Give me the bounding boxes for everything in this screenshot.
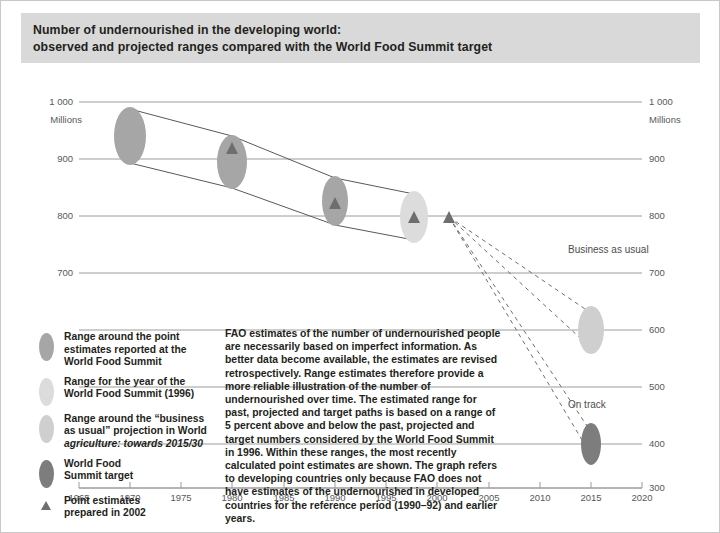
legend-label-line: agriculture: towards 2015/30 bbox=[64, 438, 216, 451]
point-estimate-1999 bbox=[443, 211, 455, 223]
svg-text:700: 700 bbox=[649, 267, 665, 278]
chart-frame: Number of undernourished in the developi… bbox=[21, 13, 700, 521]
svg-text:900: 900 bbox=[57, 153, 73, 164]
chart-page: Number of undernourished in the developi… bbox=[0, 0, 720, 533]
svg-text:400: 400 bbox=[649, 438, 665, 449]
legend-item-range-business-as-usual: Range around the “business as usual” pro… bbox=[36, 413, 216, 451]
svg-text:2020: 2020 bbox=[631, 492, 652, 503]
chart-title-line-2: observed and projected ranges compared w… bbox=[33, 40, 492, 54]
chart-legend: Range around the point estimates reporte… bbox=[36, 331, 216, 532]
legend-label-line: Point estimates bbox=[64, 495, 216, 508]
y-axis-right-labels: 1 000 900 800 700 600 500 400 300 bbox=[649, 96, 673, 493]
legend-label-text: as usual” projection in World bbox=[64, 425, 207, 436]
legend-label-line: prepared in 2002 bbox=[64, 507, 216, 520]
y-axis-unit-right: Millions bbox=[649, 114, 681, 125]
chart-body-text: FAO estimates of the number of undernour… bbox=[225, 327, 503, 525]
observed-band-outline bbox=[130, 109, 414, 240]
svg-text:1 000: 1 000 bbox=[49, 96, 73, 107]
svg-text:500: 500 bbox=[649, 381, 665, 392]
svg-text:700: 700 bbox=[57, 267, 73, 278]
range-ellipse-1970 bbox=[114, 107, 146, 165]
chart-plot-area: 1 000 900 800 700 Millions 1 000 900 800… bbox=[21, 63, 700, 521]
legend-label-line: World Food Summit (1996) bbox=[64, 388, 216, 401]
y-axis-unit-left: Millions bbox=[50, 114, 82, 125]
svg-text:800: 800 bbox=[649, 210, 665, 221]
svg-text:2010: 2010 bbox=[529, 492, 550, 503]
triangle-icon bbox=[41, 501, 51, 510]
legend-label-line: Range around the “business bbox=[64, 413, 216, 426]
legend-item-range-wfs-point-estimates: Range around the point estimates reporte… bbox=[36, 331, 216, 369]
legend-item-wfs-target: World Food Summit target bbox=[36, 458, 216, 488]
legend-label-line: as usual” projection in World bbox=[64, 425, 216, 438]
legend-label-line: World Food Summit bbox=[64, 356, 216, 369]
legend-label-line: Summit target bbox=[64, 470, 216, 483]
legend-item-point-estimates-2002: Point estimates prepared in 2002 bbox=[36, 495, 216, 525]
legend-swatch-ellipse bbox=[39, 333, 54, 361]
svg-text:1 000: 1 000 bbox=[649, 96, 673, 107]
svg-text:600: 600 bbox=[649, 324, 665, 335]
legend-swatch-ellipse bbox=[39, 415, 54, 443]
chart-title-band: Number of undernourished in the developi… bbox=[21, 13, 700, 63]
annotation-on-track: On track bbox=[568, 399, 607, 410]
annotation-business-as-usual: Business as usual bbox=[568, 244, 649, 255]
chart-title-line-1: Number of undernourished in the developi… bbox=[33, 23, 341, 37]
range-ellipse-2015-target bbox=[581, 423, 601, 465]
legend-swatch-ellipse bbox=[39, 460, 54, 488]
svg-text:900: 900 bbox=[649, 153, 665, 164]
range-ellipse-2015-business-as-usual bbox=[578, 306, 604, 354]
legend-swatch-ellipse bbox=[39, 378, 54, 406]
legend-label-line: Range around the point bbox=[64, 331, 216, 344]
legend-label-line: Range for the year of the bbox=[64, 376, 216, 389]
legend-item-range-wfs-1996: Range for the year of the World Food Sum… bbox=[36, 376, 216, 406]
legend-label-line: World Food bbox=[64, 458, 216, 471]
svg-text:800: 800 bbox=[57, 210, 73, 221]
legend-label-italic: agriculture: towards 2015/30 bbox=[64, 438, 203, 449]
legend-label-line: estimates reported at the bbox=[64, 344, 216, 357]
svg-text:2015: 2015 bbox=[580, 492, 601, 503]
business-as-usual-upper-line bbox=[449, 217, 591, 313]
